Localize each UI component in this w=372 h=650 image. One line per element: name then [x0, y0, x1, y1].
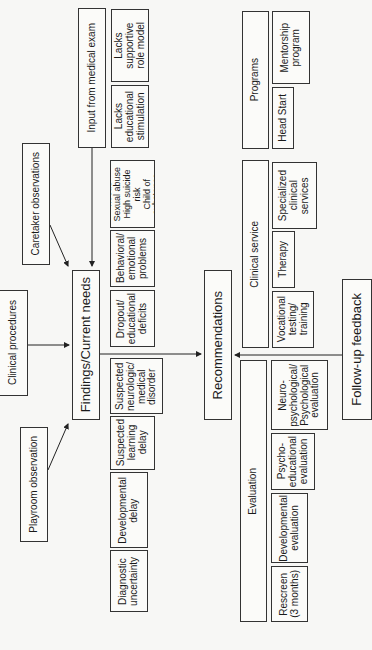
- finding-item: Suspected learning delay: [110, 416, 155, 470]
- clinical-procedures-box: Clinical procedures: [0, 290, 28, 396]
- clinical-procedures-label: Clinical procedures: [8, 300, 19, 385]
- evaluation-group-box: Evaluation: [240, 360, 267, 622]
- finding-item: Dropout/ educational deficits: [110, 290, 155, 347]
- input-medical-exam-box: Input from medical exam: [78, 8, 106, 148]
- finding-item: Lacks educational stimulation: [111, 85, 149, 148]
- recommendations-title: Recommendations: [211, 291, 225, 399]
- evaluation-item: Neuro- psychological/ Psychological eval…: [271, 360, 328, 430]
- caretaker-observations-box: Caretaker observations: [22, 143, 50, 265]
- finding-item: Diagnostic uncertainty: [110, 550, 148, 612]
- clinical-service-item: Specialized clinical services: [272, 162, 317, 229]
- program-item: Mentorship program: [272, 11, 310, 84]
- playroom-observation-box: Playroom observation: [20, 427, 48, 542]
- playroom-observation-label: Playroom observation: [29, 436, 40, 533]
- follow-up-feedback-box: Follow-up feedback: [342, 279, 372, 420]
- programs-group-box: Programs: [242, 11, 269, 149]
- input-medical-exam-label: Input from medical exam: [87, 23, 98, 133]
- finding-item-special-needs: Special needs Sexual abuse High suicide …: [110, 160, 155, 228]
- clinical-service-group-box: Clinical service: [242, 160, 269, 348]
- recommendations-box: Recommendations: [204, 270, 232, 420]
- caretaker-observations-label: Caretaker observations: [31, 152, 42, 255]
- evaluation-item: Psycho- educational evaluation: [271, 433, 315, 490]
- finding-item: Developmental delay: [110, 472, 148, 548]
- finding-item: Lacks supportive role model: [111, 9, 149, 82]
- program-item: Head Start: [272, 87, 294, 149]
- clinical-service-item: Therapy: [272, 231, 295, 288]
- clinical-service-item: Vocational testing/ training: [272, 291, 314, 348]
- finding-item: Behavioral/ emotional problems: [110, 230, 155, 287]
- follow-up-feedback-label: Follow-up feedback: [350, 293, 364, 406]
- findings-title: Findings/Current needs: [79, 277, 93, 412]
- findings-box: Findings/Current needs: [72, 270, 100, 420]
- finding-item: Suspected neurologic/ medical disorder: [110, 358, 163, 414]
- evaluation-item: Rescreen (3 months): [271, 566, 308, 622]
- evaluation-item: Developmental evaluation: [271, 493, 308, 563]
